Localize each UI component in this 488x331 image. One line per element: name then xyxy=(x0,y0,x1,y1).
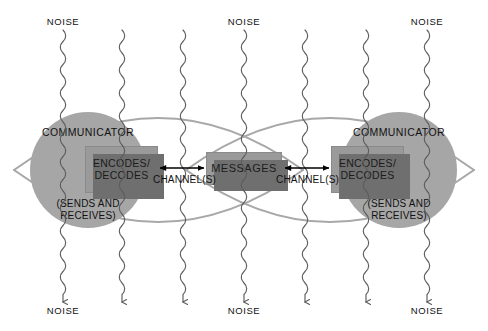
noise-label-bottom-right: NOISE xyxy=(397,306,457,317)
channel-label-left: CHANNEL(S) xyxy=(153,174,215,186)
channel-arrows-layer xyxy=(0,0,488,331)
noise-label-bottom-left: NOISE xyxy=(33,306,93,317)
noise-label-top-center: NOISE xyxy=(214,17,274,28)
diagram-canvas: COMMUNICATOR (SENDS AND RECEIVES) COMMUN… xyxy=(0,0,488,331)
channel-label-right: CHANNEL(S) xyxy=(276,174,338,186)
noise-label-bottom-center: NOISE xyxy=(214,306,274,317)
noise-label-top-right: NOISE xyxy=(397,17,457,28)
noise-label-top-left: NOISE xyxy=(33,17,93,28)
